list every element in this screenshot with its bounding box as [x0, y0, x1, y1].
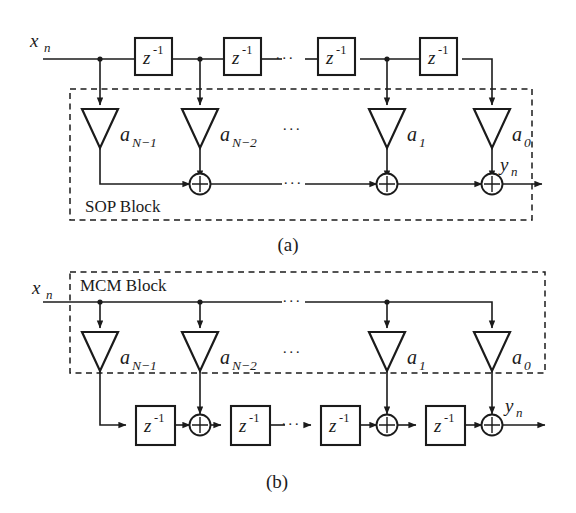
delay-exponent: -1: [242, 43, 252, 57]
multiplier-b-1: a 1: [369, 332, 426, 373]
ellipsis-delayline-a: ···: [275, 50, 295, 66]
panel-a-input-label: x n: [29, 30, 51, 55]
coefficient-label: a: [512, 346, 522, 368]
multiplier-b-0: a 0: [474, 332, 531, 373]
input-label-sub-n: n: [46, 287, 53, 302]
panel-b: x n MCM Block ··· a N−1 a N−2 a: [31, 272, 545, 493]
delay-symbol: z: [325, 47, 334, 68]
delay-exponent: -1: [444, 411, 454, 425]
coefficient-sub: 0: [524, 358, 531, 373]
ellipsis-chain-b: ···: [281, 416, 301, 432]
delay-box-b-4: z -1: [426, 406, 465, 445]
coefficient-label: a: [120, 346, 130, 368]
output-label-sub-n: n: [516, 405, 523, 420]
multiplier-a-N-2: a N−2: [182, 109, 257, 150]
mult-out-wire-b-1: [100, 371, 126, 425]
coefficient-label: a: [407, 346, 417, 368]
input-bus-b-right: [305, 302, 492, 328]
adder-a-1: [190, 174, 211, 195]
delay-box-a-4: z -1: [420, 38, 457, 75]
coefficient-sub: N−1: [131, 135, 157, 150]
multiplier-a-1: a 1: [369, 109, 426, 150]
mcm-block-label: MCM Block: [80, 276, 167, 295]
ellipsis-multipliers-b: ···: [282, 344, 302, 360]
delay-box-a-3: z -1: [318, 38, 355, 75]
coefficient-sub: N−2: [231, 135, 257, 150]
coefficient-sub: N−2: [231, 358, 257, 373]
coefficient-sub: 1: [419, 135, 426, 150]
fir-filter-diagram: x n ··· z -1 z -1 z -1 z -: [0, 0, 576, 513]
delay-symbol: z: [143, 415, 152, 436]
delay-box-b-2: z -1: [231, 406, 270, 445]
input-label-x: x: [29, 30, 39, 51]
coefficient-label: a: [120, 123, 130, 145]
output-label-sub-n: n: [511, 164, 518, 179]
delay-symbol: z: [231, 47, 240, 68]
caption-panel-b: (b): [266, 471, 288, 493]
delay-exponent: -1: [154, 411, 164, 425]
multiplier-b-N-2: a N−2: [182, 332, 257, 373]
delay-exponent: -1: [438, 43, 448, 57]
panel-b-input-label: x n: [31, 277, 53, 302]
delay-symbol: z: [238, 415, 247, 436]
delay-symbol: z: [328, 415, 337, 436]
panel-b-output-label: y n: [503, 395, 523, 420]
delay-box-b-1: z -1: [136, 406, 175, 445]
adder-b-1: [190, 415, 211, 436]
figure-container: x n ··· z -1 z -1 z -1 z -: [0, 0, 576, 513]
delay-symbol: z: [433, 415, 442, 436]
delay-box-a-2: z -1: [224, 38, 261, 75]
ellipsis-sumline-a: ···: [283, 175, 303, 191]
panel-a-output-label: y n: [498, 154, 518, 179]
adder-b-3: [482, 415, 503, 436]
input-label-x: x: [31, 277, 41, 298]
coefficient-label: a: [512, 123, 522, 145]
panel-a: x n ··· z -1 z -1 z -1 z -: [29, 30, 542, 256]
multiplier-b-N-1: a N−1: [82, 332, 157, 373]
adder-a-3: [482, 174, 503, 195]
coefficient-sub: 1: [419, 358, 426, 373]
adder-b-2: [377, 415, 398, 436]
delay-symbol: z: [142, 47, 151, 68]
output-label-y: y: [503, 395, 514, 416]
delay-symbol: z: [427, 47, 436, 68]
coefficient-label: a: [220, 346, 230, 368]
coefficient-label: a: [220, 123, 230, 145]
multiplier-a-0: a 0: [474, 109, 531, 150]
coefficient-sub: 0: [524, 135, 531, 150]
sop-block-label: SOP Block: [85, 197, 161, 216]
coefficient-sub: N−1: [131, 358, 157, 373]
coefficient-label: a: [407, 123, 417, 145]
delay-exponent: -1: [153, 43, 163, 57]
output-label-y: y: [498, 154, 509, 175]
delay-wire-a5: [462, 59, 492, 105]
ellipsis-bus-b: ···: [282, 293, 302, 309]
mult-out-wire-a-1: [100, 148, 190, 184]
delay-exponent: -1: [339, 411, 349, 425]
input-label-sub-n: n: [44, 40, 51, 55]
delay-box-b-3: z -1: [321, 406, 360, 445]
delay-exponent: -1: [249, 411, 259, 425]
adder-a-2: [377, 174, 398, 195]
ellipsis-multipliers-a: ···: [282, 121, 302, 137]
caption-panel-a: (a): [277, 234, 298, 256]
delay-box-a-1: z -1: [135, 38, 172, 75]
multiplier-a-N-1: a N−1: [82, 109, 157, 150]
delay-exponent: -1: [336, 43, 346, 57]
